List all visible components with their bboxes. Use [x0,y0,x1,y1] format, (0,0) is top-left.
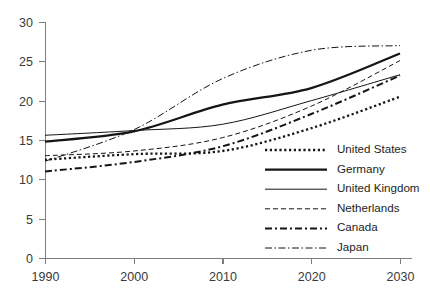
line-chart-figure: 051015202530 19902000201020202030 United… [0,0,430,297]
legend-label-united-kingdom: United Kingdom [337,181,420,194]
x-tick-label: 1990 [32,270,60,284]
legend-label-united-states: United States [337,142,407,155]
legend-label-japan: Japan [337,240,369,253]
x-tick-label: 2000 [120,270,148,284]
legend-label-germany: Germany [337,162,385,175]
y-tick-label: 5 [26,213,33,227]
y-tick-label: 25 [19,55,33,69]
y-tick-label: 15 [19,134,33,148]
x-tick-label: 2030 [387,270,415,284]
chart-canvas: 051015202530 19902000201020202030 United… [0,0,430,297]
y-tick-label: 0 [26,252,33,266]
y-tick-label: 10 [19,173,33,187]
y-tick-label: 30 [19,16,33,30]
legend-label-canada: Canada [337,220,378,233]
x-tick-label: 2010 [209,270,237,284]
y-tick-label: 20 [19,95,33,109]
x-tick-label: 2020 [298,270,326,284]
legend-label-netherlands: Netherlands [337,201,400,214]
